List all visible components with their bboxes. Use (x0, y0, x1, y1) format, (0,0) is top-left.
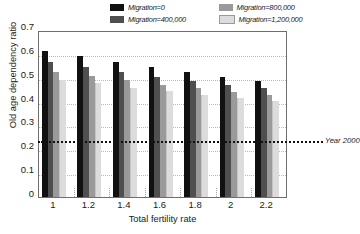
y-tick-label: 0.2 (2, 141, 34, 151)
legend-swatch-migration-1200000 (219, 15, 235, 24)
x-axis-separator (216, 188, 217, 197)
legend-label-migration-1200000: Migration=1,200,000 (239, 16, 303, 23)
y-tick-label: 0.1 (2, 165, 34, 175)
y-tick-label: 0.7 (2, 22, 34, 32)
x-axis-separator (180, 188, 181, 197)
x-axis-title: Total fertility rate (38, 214, 287, 224)
legend-swatch-migration-800000 (219, 4, 233, 11)
y-tick-label: 0.4 (2, 94, 34, 104)
bar[interactable] (201, 95, 208, 197)
x-axis-separator (109, 188, 110, 197)
bar[interactable] (166, 91, 173, 197)
legend-entry-migration-1200000[interactable]: Migration=1,200,000 (219, 15, 325, 24)
bar-group (149, 32, 173, 197)
legend-entry-migration-400000[interactable]: Migration=400,000 (110, 16, 209, 23)
x-axis-separator (251, 188, 252, 197)
bar[interactable] (237, 98, 244, 198)
x-tick-label: 1.2 (73, 200, 103, 210)
bar[interactable] (59, 80, 66, 197)
x-tick-label: 1.4 (109, 200, 139, 210)
legend-label-migration-0: Migration=0 (128, 4, 165, 11)
legend-entry-migration-0[interactable]: Migration=0 (110, 4, 209, 11)
bar-group (113, 32, 137, 197)
bar-group (77, 32, 101, 197)
y-tick-label: 0.3 (2, 117, 34, 127)
bar[interactable] (272, 101, 279, 197)
bar-series-layer (39, 32, 286, 197)
y-axis-title: Old age dependency ratio (8, 0, 18, 150)
chart-legend: Migration=0 Migration=800,000 Migration=… (110, 2, 325, 25)
legend-entry-migration-800000[interactable]: Migration=800,000 (219, 4, 325, 11)
y-tick-label: 0.6 (2, 46, 34, 56)
legend-label-migration-800000: Migration=800,000 (237, 4, 295, 11)
x-tick-label: 1.6 (145, 200, 175, 210)
year-2000-reference-label: Year 2000 (325, 136, 360, 145)
y-tick-label: 0.5 (2, 70, 34, 80)
legend-swatch-migration-0 (110, 4, 124, 11)
bar-group (184, 32, 208, 197)
x-axis-separator (145, 188, 146, 197)
x-axis-separator (74, 188, 75, 197)
plot-area (38, 31, 287, 198)
legend-swatch-migration-400000 (110, 16, 124, 23)
bar-group (42, 32, 66, 197)
y-tick-label: 0 (2, 189, 34, 199)
x-tick-label: 1 (38, 200, 68, 210)
legend-label-migration-400000: Migration=400,000 (128, 16, 186, 23)
bar-group (255, 32, 279, 197)
year-2000-reference-line (38, 141, 323, 143)
x-tick-label: 2.2 (251, 200, 281, 210)
bar-group (220, 32, 244, 197)
x-tick-label: 2 (216, 200, 246, 210)
x-tick-label: 1.8 (180, 200, 210, 210)
